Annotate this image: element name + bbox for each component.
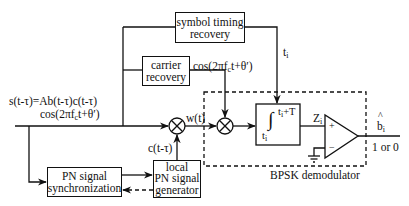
pn-signal-synchronization-block: PN signal synchronization	[47, 167, 122, 197]
carrier-line1: carrier	[151, 59, 181, 71]
bpsk-demodulator-label: BPSK demodulator	[270, 169, 360, 181]
carrier-line2: recovery	[146, 71, 186, 83]
carrier-line	[190, 70, 225, 117]
input-signal-label-line2: cos(2πfct+θ′)	[40, 108, 100, 120]
local-pn-generator-block: local PN signal generator	[153, 160, 201, 198]
carrier-output-label: cos(2πfct+θ′)	[193, 60, 253, 72]
comparator-plus-label: +	[329, 120, 335, 132]
mixer-output-label: w(t)	[186, 112, 205, 124]
to-pn-sync-line	[29, 126, 46, 182]
comparator-minus-label: −	[329, 142, 335, 154]
input-signal-label-line1: s(t-τ)=Ab(t-τ)c(t-τ)	[9, 95, 97, 107]
integrator-output-label: Zi	[313, 112, 322, 124]
decision-values-label: 1 or 0	[372, 141, 399, 153]
pn-sync-line1: PN signal	[62, 170, 107, 182]
pn-code-label: c(t-τ)	[148, 142, 172, 154]
symbol-timing-line1: symbol timing	[177, 16, 244, 28]
symbol-timing-recovery-block: symbol timing recovery	[175, 12, 245, 43]
carrier-recovery-block: carrier recovery	[142, 56, 190, 86]
symbol-timing-line2: recovery	[190, 28, 230, 40]
integral-upper-limit: ti+T	[278, 106, 296, 118]
integral-sign: ∫	[268, 108, 273, 130]
integral-lower-limit: ti	[262, 130, 267, 142]
timing-label: ti	[283, 46, 288, 58]
local-pn-line3: generator	[155, 185, 198, 197]
pn-sync-line2: synchronization	[48, 182, 121, 194]
decision-label: bi	[377, 120, 385, 132]
